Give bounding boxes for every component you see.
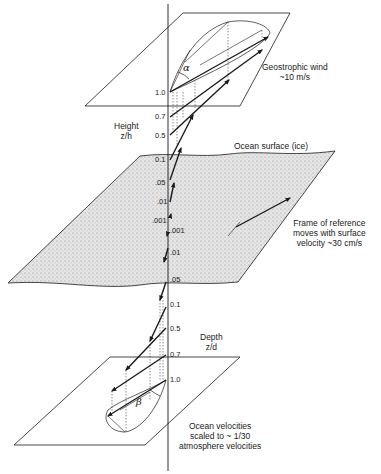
depth-tick-1.0: 1.0 xyxy=(170,375,180,385)
geostrophic-wind-line1: Geostrophic wind xyxy=(262,62,328,72)
height-tick-.01: .01 xyxy=(157,197,167,207)
geostrophic-wind-label: Geostrophic wind ~10 m/s xyxy=(262,62,328,82)
depth-axis-label: Depth z/d xyxy=(200,332,223,352)
depth-tick-.001: .001 xyxy=(170,226,185,236)
ocean-velocities-label: Ocean velocities scaled to ~ 1/30 atmosp… xyxy=(179,421,261,451)
depth-tick-0.5: 0.5 xyxy=(170,324,180,334)
ocean-vel-line3: atmosphere velocities xyxy=(179,441,261,451)
depth-tick-0.7: 0.7 xyxy=(170,350,180,360)
ocean-vel-line1: Ocean velocities xyxy=(179,421,261,431)
height-label: Height xyxy=(114,121,139,131)
frame-line3: velocity ~30 cm/s xyxy=(293,238,366,248)
depth-label: Depth xyxy=(200,332,223,342)
depth-tick-.01: .01 xyxy=(170,248,180,258)
frame-line2: moves with surface xyxy=(293,228,366,238)
depth-unit: z/d xyxy=(200,342,223,352)
alpha-arc xyxy=(178,72,189,79)
ocean-surface-plane xyxy=(8,151,335,286)
height-tick-.001: .001 xyxy=(152,216,167,226)
ocean-vel-line2: scaled to ~ 1/30 xyxy=(179,431,261,441)
frame-line1: Frame of reference xyxy=(293,218,366,228)
depth-tick-0.1: 0.1 xyxy=(170,300,180,310)
ocean-surface-label: Ocean surface (ice) xyxy=(234,141,308,151)
beta-arc xyxy=(150,390,160,396)
height-axis-label: Height z/h xyxy=(114,121,139,141)
height-tick-0.7: 0.7 xyxy=(155,112,165,122)
geostrophic-wind-line2: ~10 m/s xyxy=(262,72,328,82)
beta-label: β xyxy=(136,397,142,407)
height-unit: z/h xyxy=(114,131,139,141)
height-tick-1.0: 1.0 xyxy=(155,88,165,98)
frame-of-reference-label: Frame of reference moves with surface ve… xyxy=(293,218,366,248)
height-tick-0.1: 0.1 xyxy=(155,155,165,165)
depth-tick-.05: .05 xyxy=(170,275,180,285)
height-tick-0.5: 0.5 xyxy=(155,131,165,141)
alpha-label: α xyxy=(183,63,190,73)
height-tick-.05: .05 xyxy=(155,178,165,188)
